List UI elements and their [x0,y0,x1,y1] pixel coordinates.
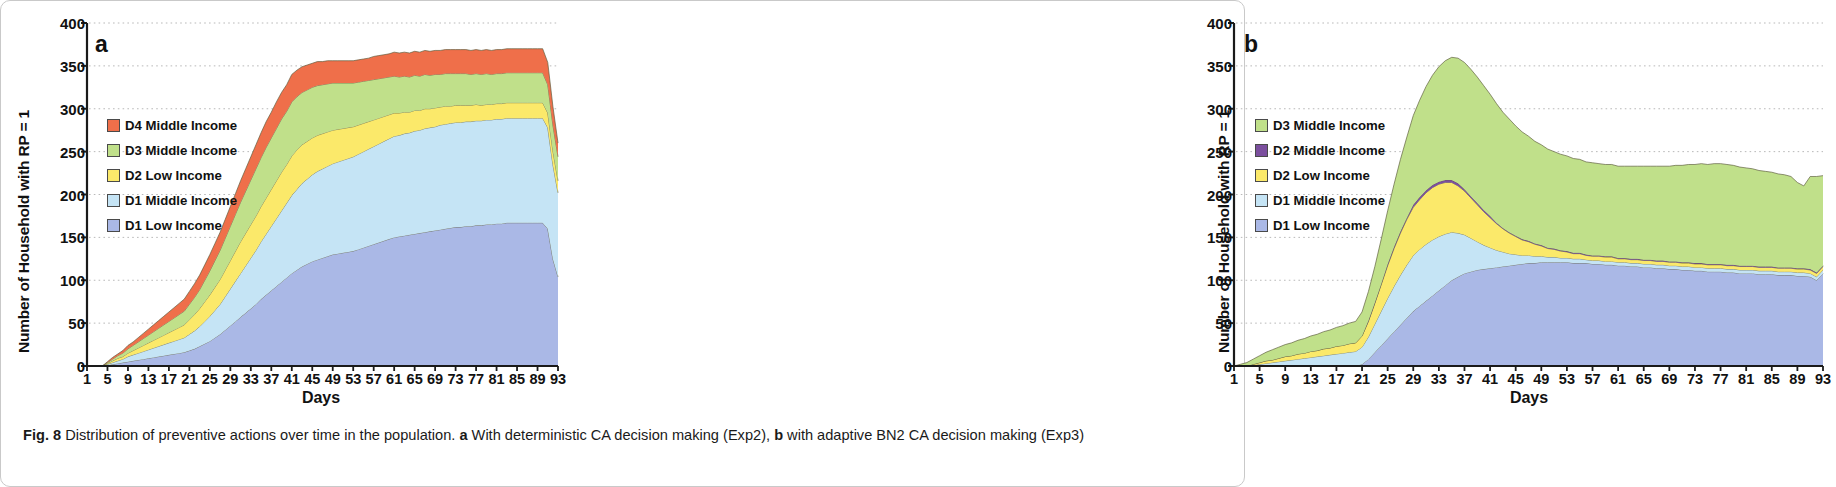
x-tick-label: 65 [1632,372,1656,387]
x-tick-label: 57 [1581,372,1605,387]
x-tick-label: 93 [1811,372,1835,387]
y-tick-label: 50 [43,316,85,331]
figure-caption: Fig. 8 Distribution of preventive action… [23,425,1223,447]
caption-marker-a: a [459,427,467,443]
caption-text-b: with adaptive BN2 CA decision making (Ex… [783,427,1084,443]
legend-item-label: D1 Middle Income [1273,194,1385,207]
x-tick-label: 69 [1657,372,1681,387]
legend-item: D1 Low Income [1255,213,1385,238]
legend-item-label: D1 Low Income [1273,219,1370,232]
y-tick-label: 100 [43,273,85,288]
y-tick-label: 150 [1190,230,1232,245]
legend-item: D3 Middle Income [107,138,237,163]
y-tick-label: 200 [1190,188,1232,203]
legend-color-swatch-icon [107,194,120,207]
y-tick-label: 50 [1190,316,1232,331]
x-tick-label: 41 [1478,372,1502,387]
legend-item: D2 Low Income [107,163,237,188]
legend-color-swatch-icon [1255,169,1268,182]
y-tick-label: 300 [1190,102,1232,117]
legend-item: D4 Middle Income [107,113,237,138]
panel-a: Number of Household with RP = 1 a D4 Mid… [1,1,623,413]
legend-item-label: D3 Middle Income [125,144,237,157]
x-tick-label: 45 [1504,372,1528,387]
caption-text-a: With deterministic CA decision making (E… [468,427,775,443]
x-tick-label: 5 [1248,372,1272,387]
caption-main-text: Distribution of preventive actions over … [61,427,459,443]
x-tick-label: 9 [1273,372,1297,387]
legend-item: D3 Middle Income [1255,113,1385,138]
legend-color-swatch-icon [1255,144,1268,157]
x-tick-label: 89 [1785,372,1809,387]
x-tick-label: 85 [1760,372,1784,387]
x-tick-label: 77 [1709,372,1733,387]
panel-b-x-axis-label: Days [1449,389,1609,407]
legend-item: D1 Middle Income [107,188,237,213]
caption-figure-number: Fig. 8 [23,427,61,443]
legend-item: D2 Middle Income [1255,138,1385,163]
panel-a-plot-area [1,1,623,413]
legend-color-swatch-icon [107,219,120,232]
legend-color-swatch-icon [1255,194,1268,207]
x-tick-label: 33 [1427,372,1451,387]
legend-item-label: D4 Middle Income [125,119,237,132]
x-tick-label: 1 [1222,372,1246,387]
x-tick-label: 29 [1401,372,1425,387]
y-tick-label: 150 [43,230,85,245]
legend-item-label: D1 Low Income [125,219,222,232]
x-tick-label: 37 [1452,372,1476,387]
x-tick-label: 49 [1529,372,1553,387]
x-tick-label: 17 [1324,372,1348,387]
legend-item: D1 Low Income [107,213,237,238]
y-tick-label: 350 [43,59,85,74]
panels-container: Number of Household with RP = 1 a D4 Mid… [1,1,1246,413]
panel-b: Number of Household with RP = 1 b D3 Mid… [601,1,1246,413]
legend-color-swatch-icon [107,119,120,132]
legend-item-label: D2 Middle Income [1273,144,1385,157]
panel-a-x-axis-label: Days [241,389,401,407]
y-tick-label: 200 [43,188,85,203]
x-tick-label: 53 [1555,372,1579,387]
panel-a-legend: D4 Middle IncomeD3 Middle IncomeD2 Low I… [107,113,237,238]
legend-item-label: D2 Low Income [1273,169,1370,182]
x-tick-label: 25 [1376,372,1400,387]
legend-item-label: D1 Middle Income [125,194,237,207]
x-tick-label: 21 [1350,372,1374,387]
y-tick-label: 250 [1190,145,1232,160]
caption-marker-b: b [774,427,783,443]
legend-item: D2 Low Income [1255,163,1385,188]
panel-b-legend: D3 Middle IncomeD2 Middle IncomeD2 Low I… [1255,113,1385,238]
legend-item-label: D2 Low Income [125,169,222,182]
y-tick-label: 250 [43,145,85,160]
y-tick-label: 350 [1190,59,1232,74]
x-tick-label: 13 [1299,372,1323,387]
legend-color-swatch-icon [1255,119,1268,132]
y-tick-label: 400 [43,16,85,31]
legend-color-swatch-icon [107,169,120,182]
x-tick-label: 93 [546,372,570,387]
legend-item-label: D3 Middle Income [1273,119,1385,132]
y-tick-label: 300 [43,102,85,117]
legend-item: D1 Middle Income [1255,188,1385,213]
x-tick-label: 61 [1606,372,1630,387]
y-tick-label: 400 [1190,16,1232,31]
legend-color-swatch-icon [107,144,120,157]
x-tick-label: 73 [1683,372,1707,387]
legend-color-swatch-icon [1255,219,1268,232]
x-tick-label: 81 [1734,372,1758,387]
y-tick-label: 100 [1190,273,1232,288]
